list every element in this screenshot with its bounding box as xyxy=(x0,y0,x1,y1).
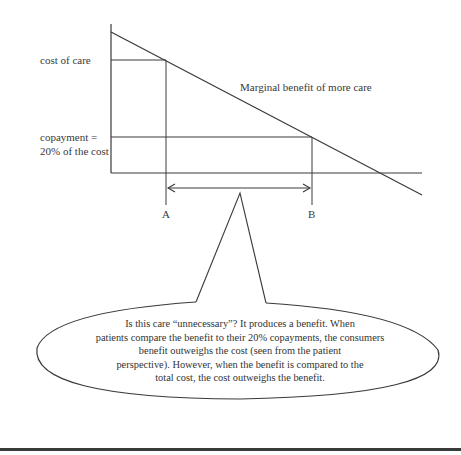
cost-of-care-label: cost of care xyxy=(40,53,91,67)
diagram-canvas xyxy=(0,0,461,455)
marker-b-label: B xyxy=(308,207,315,221)
double-arrow-icon xyxy=(168,184,310,192)
callout-line: total cost, the cost outweighs the benef… xyxy=(70,371,410,385)
callout-line: Is this care “unnecessary”? It produces … xyxy=(70,317,410,331)
callout-line: patients compare the benefit to their 20… xyxy=(70,331,410,345)
callout-line: perspective). However, when the benefit … xyxy=(70,358,410,372)
marginal-benefit-label: Marginal benefit of more care xyxy=(240,80,372,94)
callout-line: benefit outweighs the cost (seen from th… xyxy=(70,344,410,358)
callout-text: Is this care “unnecessary”? It produces … xyxy=(70,317,410,385)
copayment-label-line1: copayment = xyxy=(40,130,97,144)
marker-a-label: A xyxy=(162,207,170,221)
callout-pointer xyxy=(196,193,266,303)
copayment-label-line2: 20% of the cost xyxy=(40,144,109,158)
bottom-rule xyxy=(0,448,461,451)
marginal-benefit-curve xyxy=(111,32,422,195)
